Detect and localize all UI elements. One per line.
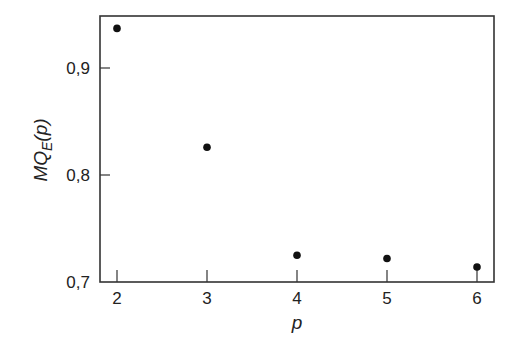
data-point: [473, 263, 481, 271]
data-point: [293, 251, 301, 259]
x-tick-label: 5: [382, 289, 391, 308]
x-tick-label: 3: [202, 289, 211, 308]
x-tick-label: 2: [112, 289, 121, 308]
data-point: [383, 255, 391, 263]
y-tick-label: 0,8: [66, 166, 90, 185]
x-tick-label: 6: [472, 289, 481, 308]
y-axis-ticks: 0,70,80,9: [66, 59, 110, 292]
plot-frame: [100, 16, 494, 282]
data-point: [113, 25, 121, 33]
scatter-chart: 23456 0,70,80,9 p MQE(p): [0, 0, 514, 349]
y-axis-label: MQE(p): [30, 118, 55, 181]
y-tick-label: 0,9: [66, 59, 90, 78]
x-tick-label: 4: [292, 289, 301, 308]
data-point: [203, 143, 211, 151]
x-axis-ticks: 23456: [112, 270, 481, 308]
y-tick-label: 0,7: [66, 273, 90, 292]
data-points: [113, 25, 481, 271]
svg-text:MQE(p): MQE(p): [30, 118, 55, 181]
x-axis-label: p: [291, 312, 303, 333]
